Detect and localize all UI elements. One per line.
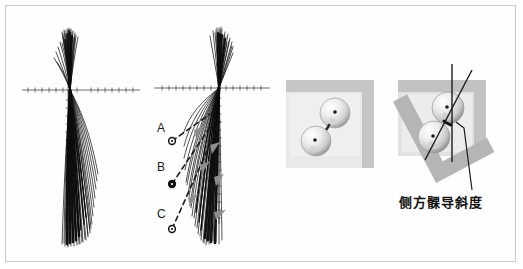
condyle-sphere-lower-tilted [418,121,450,153]
panel-condyle-spheres-tilted [392,62,504,192]
trace-bundle-upper-left [54,28,78,90]
point-marker-C [169,226,176,233]
point-label-c: C [157,208,166,220]
figure-root: A B C [0,0,523,269]
point-marker-A [169,138,176,145]
condyle-sphere-upper-tilted [432,92,464,124]
caption-lateral-condylar-guidance: 侧方髁导斜度 [399,192,483,211]
condyle-spheres-tilted-graphic [392,62,504,192]
condyle-sphere-upper [320,98,350,128]
point-marker-B [169,181,176,188]
panel-pantograph-tracing-left [18,14,148,254]
condyle-sphere-lower [301,126,331,156]
panel-pantograph-tracing-right [148,14,283,254]
panel-condyle-spheres-neutral [286,80,378,172]
point-label-b: B [157,161,165,173]
pantograph-tracing-right-graphic [148,14,283,254]
pantograph-tracing-left-graphic [18,14,148,254]
condyle-spheres-neutral-graphic [286,80,378,172]
point-label-a: A [157,122,165,134]
